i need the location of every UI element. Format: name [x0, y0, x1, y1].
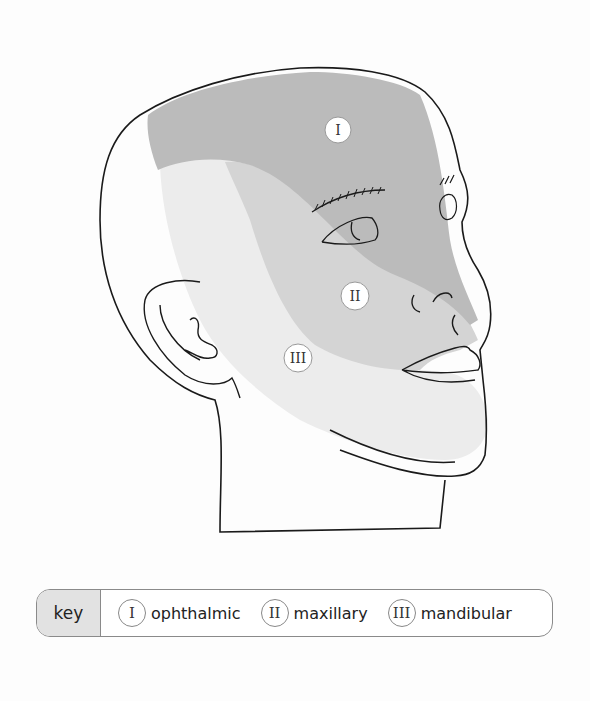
key-legend: key I ophthalmic II maxillary III mandib… — [36, 589, 553, 637]
region-marker-ophthalmic: I — [325, 117, 351, 143]
key-item-label: ophthalmic — [151, 604, 241, 623]
numeral-badge: I — [118, 599, 146, 627]
key-item-label: mandibular — [421, 604, 512, 623]
key-item-mandibular: III mandibular — [388, 599, 512, 627]
head-illustration: I II III — [0, 0, 590, 560]
numeral-badge: III — [388, 599, 416, 627]
key-item-maxillary: II maxillary — [261, 599, 368, 627]
svg-text:III: III — [290, 350, 307, 366]
region-marker-maxillary: II — [341, 282, 369, 310]
key-items: I ophthalmic II maxillary III mandibular — [101, 599, 512, 627]
svg-text:II: II — [349, 288, 360, 304]
svg-text:I: I — [335, 122, 341, 138]
key-item-label: maxillary — [294, 604, 368, 623]
key-title: key — [37, 590, 101, 636]
numeral-badge: II — [261, 599, 289, 627]
key-item-ophthalmic: I ophthalmic — [118, 599, 241, 627]
region-marker-mandibular: III — [284, 344, 312, 372]
